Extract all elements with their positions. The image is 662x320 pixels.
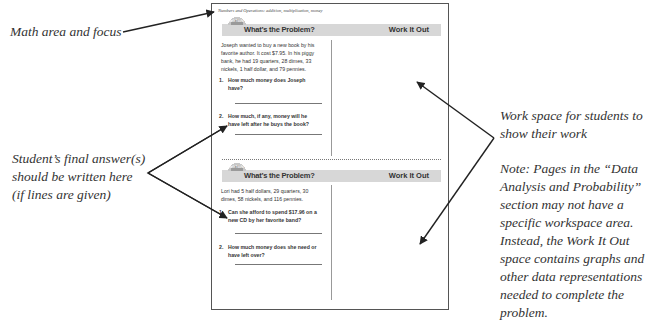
arrow-math-area — [123, 12, 214, 32]
arrow-answer-lines — [148, 126, 227, 218]
arrow-work-space-top — [417, 82, 494, 138]
arrow-work-space-bottom — [420, 138, 494, 244]
callout-arrows — [0, 0, 662, 320]
